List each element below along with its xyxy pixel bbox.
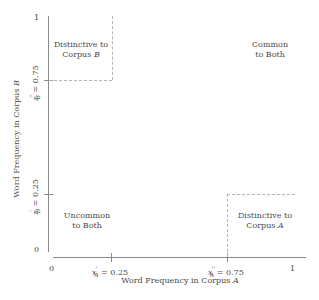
y-tick-label-1: 1 <box>34 13 39 23</box>
bottom-right-region-top-boundary <box>227 194 295 195</box>
y-axis-line <box>48 16 49 252</box>
x-tick-label-0: 0 <box>49 264 54 274</box>
region-distinctive-to-corpus-b: Distinctive to Corpus B <box>50 40 112 60</box>
y-axis-title: Word Frequency in Corpus B <box>12 59 22 219</box>
region-line1: Uncommon <box>62 211 112 221</box>
x-axis-line <box>53 257 306 258</box>
region-line1: Distinctive to <box>234 211 296 221</box>
region-distinctive-to-corpus-a: Distinctive to Corpus A <box>234 211 296 231</box>
y-tick-label-0: 0 <box>34 245 39 255</box>
y-tick-0.25 <box>44 194 53 195</box>
x-tick-0.25 <box>111 253 112 262</box>
y-tick-label-0.25: z'B = 0.25 <box>27 167 43 227</box>
y-tick-label-0.75: z''B = 0.75 <box>27 53 43 113</box>
x-axis-title: Word Frequency in Corpus A <box>100 276 260 286</box>
region-line2: Corpus A <box>234 221 296 231</box>
top-left-region-right-boundary <box>112 16 113 80</box>
region-common-to-both: Common to Both <box>245 40 295 60</box>
top-left-region-bottom-boundary <box>49 80 112 81</box>
region-line1: Common <box>245 40 295 50</box>
bottom-right-region-left-boundary <box>227 194 228 257</box>
region-line1: Distinctive to <box>50 40 112 50</box>
region-line2: to Both <box>245 50 295 60</box>
x-tick-label-1: 1 <box>290 264 295 274</box>
region-line2: to Both <box>62 221 112 231</box>
region-line2: Corpus B <box>50 50 112 60</box>
region-uncommon-to-both: Uncommon to Both <box>62 211 112 231</box>
